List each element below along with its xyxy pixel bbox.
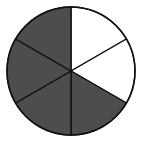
diagram-canvas xyxy=(0,0,142,145)
fraction-circle xyxy=(0,0,142,145)
